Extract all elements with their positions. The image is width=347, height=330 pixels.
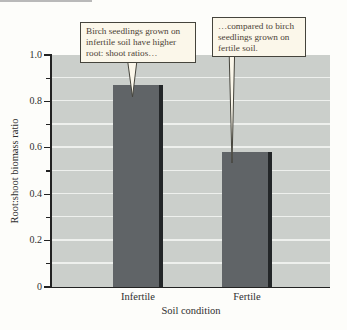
bar-shading-edge bbox=[268, 152, 272, 287]
y-axis-minor-tick bbox=[46, 217, 51, 218]
callout-infertile: Birch seedlings grown on infertile soil … bbox=[80, 22, 196, 63]
y-tick-label: 0.8 bbox=[14, 95, 42, 106]
gridline bbox=[52, 77, 330, 79]
gridline bbox=[52, 262, 330, 264]
callout-fertile: …compared to birch seedlings grown on fe… bbox=[212, 17, 306, 57]
bar-fertile bbox=[222, 152, 272, 287]
plot-area bbox=[52, 55, 330, 287]
gridline bbox=[52, 170, 330, 172]
y-axis-major-tick bbox=[44, 240, 51, 241]
gridline bbox=[52, 100, 330, 102]
y-tick-label: 0 bbox=[14, 281, 42, 292]
x-category-label: Fertile bbox=[202, 291, 292, 302]
y-axis-minor-tick bbox=[46, 124, 51, 125]
y-axis-minor-tick bbox=[46, 170, 51, 171]
y-axis-minor-tick bbox=[46, 78, 51, 79]
bar-shading-edge bbox=[159, 85, 163, 287]
gridline bbox=[52, 146, 330, 148]
y-axis-title: Root:shoot biomass ratio bbox=[9, 119, 20, 224]
scan-artifact-line bbox=[0, 0, 92, 2]
gridline bbox=[52, 123, 330, 125]
y-axis-minor-tick bbox=[46, 263, 51, 264]
x-category-label: Infertile bbox=[93, 291, 183, 302]
x-axis-title: Soil condition bbox=[52, 305, 330, 316]
x-axis-line bbox=[50, 287, 330, 289]
y-axis-major-tick bbox=[44, 286, 51, 287]
y-tick-label: 0.2 bbox=[14, 234, 42, 245]
y-axis-major-tick bbox=[44, 54, 51, 55]
bar-infertile bbox=[113, 85, 163, 287]
y-axis-major-tick bbox=[44, 147, 51, 148]
y-axis-major-tick bbox=[44, 101, 51, 102]
y-axis-major-tick bbox=[44, 194, 51, 195]
gridline bbox=[52, 239, 330, 241]
gridline bbox=[52, 193, 330, 195]
y-tick-label: 1.0 bbox=[14, 49, 42, 60]
figure: 00.20.40.60.81.0 InfertileFertile Root:s… bbox=[0, 0, 347, 330]
gridline bbox=[52, 216, 330, 218]
